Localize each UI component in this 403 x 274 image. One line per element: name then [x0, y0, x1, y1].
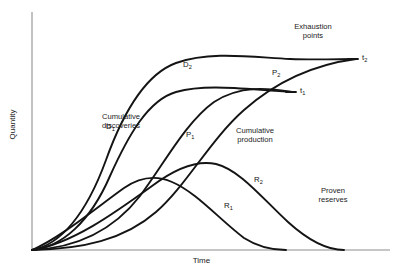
endpoint-label-t2-sub: 2 — [364, 57, 367, 63]
curve-label-p1: P1 — [186, 130, 194, 139]
curve-label-d2-text: D — [183, 60, 189, 69]
endpoint-label-t1-sub: 1 — [302, 90, 305, 96]
annotation-exhaustion-points: Exhaustion points — [272, 22, 354, 41]
y-axis-title: Quantity — [8, 95, 17, 155]
curve-label-p1-sub: 1 — [191, 134, 194, 140]
curve-label-r2-sub: 2 — [260, 179, 263, 185]
curve-label-d2-sub: 2 — [189, 64, 192, 70]
annotation-cumulative-discoveries: Cumulative discoveries — [82, 112, 160, 131]
annotation-cumulative-production: Cumulative production — [216, 126, 294, 145]
curve-label-p2: P2 — [272, 68, 280, 77]
endpoint-label-t1: t1 — [300, 86, 305, 95]
curve-label-r1-text: R — [224, 201, 230, 210]
annotation-proven-reserves: Proven reserves — [300, 186, 366, 205]
curve-r1 — [32, 178, 286, 250]
curve-label-p2-sub: 2 — [277, 72, 280, 78]
resource-depletion-chart: Quantity Time Cumulative discoveries Cum… — [0, 0, 403, 274]
curve-label-r1: R1 — [224, 201, 233, 210]
chart-plot-area — [0, 0, 403, 274]
curve-label-r1-sub: 1 — [230, 205, 233, 211]
curve-label-d1-text: D — [106, 122, 112, 131]
curve-label-r2: R2 — [254, 175, 263, 184]
curve-p2 — [32, 59, 356, 250]
curve-label-d2: D2 — [183, 60, 192, 69]
curve-label-d1: D1 — [106, 122, 115, 131]
curve-label-r2-text: R — [254, 175, 260, 184]
x-axis-title: Time — [0, 256, 403, 265]
curve-label-d1-sub: 1 — [112, 126, 115, 132]
endpoint-label-t2: t2 — [362, 53, 367, 62]
